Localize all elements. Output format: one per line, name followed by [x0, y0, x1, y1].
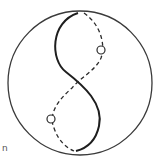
dashed-s-curve [52, 13, 102, 151]
small-circle-lower [47, 115, 55, 123]
small-circle-upper [97, 46, 105, 54]
diagram [0, 0, 160, 161]
corner-label: n [2, 144, 8, 153]
